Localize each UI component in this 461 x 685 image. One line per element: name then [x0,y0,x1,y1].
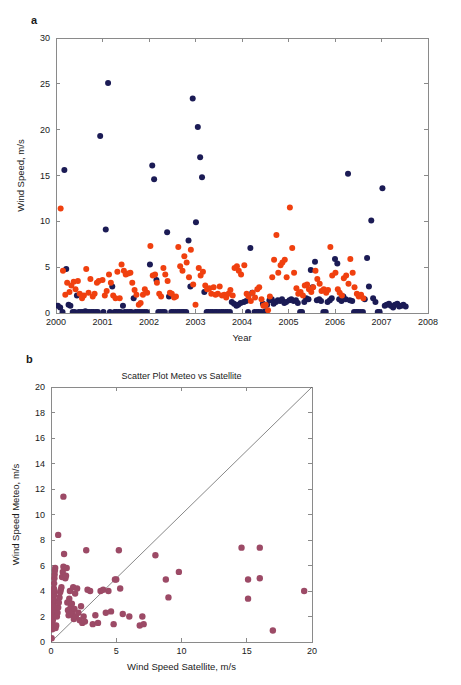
data-point [227,287,233,293]
series-group [55,80,409,315]
data-point [350,270,356,276]
data-point [58,206,64,212]
data-point [139,613,145,619]
data-point [108,280,114,286]
x-tick-label: 2000 [46,317,66,327]
series-meteo [55,80,409,315]
data-point [126,613,132,619]
data-point [360,295,366,301]
data-point [63,573,69,579]
data-point [197,154,203,160]
data-point [282,257,288,263]
data-point [211,284,217,290]
y-tick-label: 8 [40,535,45,545]
y-tick-label: 15 [40,171,50,181]
y-tick-label: 0 [45,308,50,318]
data-point [217,283,223,289]
data-point [173,294,179,300]
data-point [160,265,166,271]
data-point [140,621,146,627]
x-tick-label: 20 [307,646,317,656]
data-point [310,284,316,290]
data-point [352,284,358,290]
data-point [199,174,205,180]
x-tick-label: 15 [242,646,252,656]
data-point [195,124,201,130]
y-tick-label: 16 [35,433,45,443]
data-point [103,227,109,233]
y-tick-label: 20 [35,382,45,392]
data-point [63,565,69,571]
data-point [259,296,265,302]
data-point [403,304,409,310]
x-tick-label: 5 [114,646,119,656]
panel-a: a 20002001200220032004200520062007200805… [0,0,461,345]
data-point [317,281,323,287]
data-point [95,620,101,626]
y-tick-label: 14 [35,459,45,469]
data-point [163,576,169,582]
data-point [165,594,171,600]
panel-b-plot: 0510152002468101214161820Scatter Plot Me… [0,345,461,685]
data-point [347,256,353,262]
one-to-one-line [51,387,312,642]
data-point [334,261,340,267]
data-point [312,268,318,274]
x-tick-label: 2003 [185,317,205,327]
data-point [144,309,150,315]
data-point [162,309,168,315]
data-point [152,272,158,278]
data-point [270,627,276,633]
x-tick-label: 2006 [325,317,345,327]
data-point [193,219,199,225]
y-tick-label: 30 [40,33,50,43]
data-point [366,283,372,289]
data-point [119,261,125,267]
data-point [75,278,81,284]
y-tick-label: 10 [35,510,45,520]
data-point [377,309,383,315]
data-point [345,281,351,287]
data-point [92,291,98,297]
data-point [165,278,171,284]
data-point [332,270,338,276]
y-tick-label: 6 [40,561,45,571]
data-point [55,532,61,538]
data-point [190,96,196,102]
data-point [263,302,269,308]
data-point [186,238,192,244]
data-point [114,269,120,275]
x-axis-title: Wind Speed Satellite, m/s [127,661,236,672]
data-point [256,284,262,290]
data-point [299,309,305,315]
data-point [312,259,318,265]
data-point [291,270,297,276]
data-point [105,80,111,86]
data-point [100,309,106,315]
x-tick-label: 2004 [232,317,252,327]
data-point [329,295,335,301]
y-tick-label: 25 [40,79,50,89]
data-point [147,243,153,249]
data-point [149,162,155,168]
data-point [152,552,158,558]
data-point [227,309,233,315]
data-point [230,293,236,299]
x-tick-label: 2008 [418,317,438,327]
data-point [92,612,98,618]
data-point [295,300,301,306]
panel-a-plot: 2000200120022003200420052006200720080510… [0,0,461,345]
data-point [267,294,273,300]
data-point [154,280,160,286]
data-point [164,229,170,235]
data-point [87,276,93,282]
data-point [349,298,355,304]
data-point [186,274,192,280]
y-tick-label: 5 [45,262,50,272]
data-point [74,585,80,591]
data-point [245,576,251,582]
data-point [104,288,110,294]
y-tick-label: 20 [40,125,50,135]
data-point [87,588,93,594]
data-point [73,286,79,292]
